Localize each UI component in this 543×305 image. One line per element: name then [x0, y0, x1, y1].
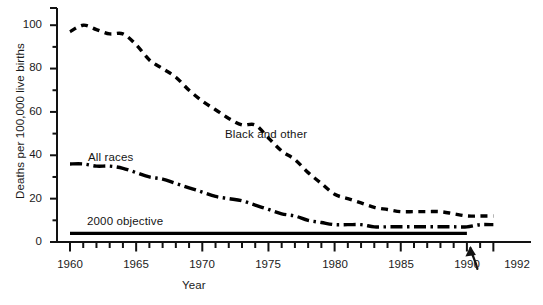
x-axis-title: Year — [182, 279, 206, 291]
x-tick-label-1990: 1990 — [444, 258, 490, 270]
x-tick-label-1980: 1980 — [312, 258, 358, 270]
x-tick-label-1965: 1965 — [113, 258, 159, 270]
y-tick-label-20: 20 — [8, 192, 42, 204]
y-tick-label-80: 80 — [8, 61, 42, 73]
y-tick-label-60: 60 — [8, 105, 42, 117]
x-tick-label-1975: 1975 — [245, 258, 291, 270]
x-tick-label-1970: 1970 — [179, 258, 225, 270]
series-line-black-and-other — [70, 25, 493, 216]
x-tick-label-1992: 1992 — [494, 258, 540, 270]
y-axis-title: Deaths per 100,000 live births — [14, 0, 26, 246]
series-label-2000-objective: 2000 objective — [87, 215, 163, 227]
x-tick-label-1960: 1960 — [47, 258, 93, 270]
y-tick-label-0: 0 — [8, 235, 42, 247]
y-tick-label-100: 100 — [8, 18, 42, 30]
x-tick-label-1985: 1985 — [378, 258, 424, 270]
series-label-all-races: All races — [88, 151, 133, 163]
y-tick-label-40: 40 — [8, 148, 42, 160]
series-label-black-and-other: Black and other — [225, 128, 307, 140]
chart-figure: Deaths per 100,000 live births Year 100 … — [0, 0, 543, 305]
